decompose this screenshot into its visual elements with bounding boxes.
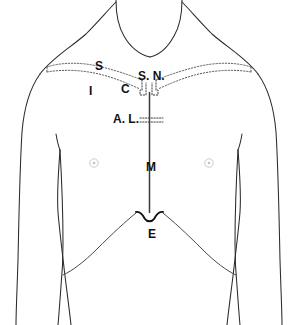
- costal-margin-right: [163, 213, 236, 275]
- neck-right-outline: [150, 0, 182, 57]
- label-clavicle: C: [121, 83, 130, 95]
- nipple-left-dot: [93, 162, 96, 165]
- label-manubrium-midline: M: [146, 161, 156, 173]
- xiphoid-notch: [136, 212, 163, 221]
- arm-left-outer-outline: [16, 74, 40, 325]
- clavicle-right-inferior-border: [158, 70, 251, 89]
- label-superior-border-clavicle: S: [95, 60, 103, 72]
- clavicle-right-superior-border: [156, 63, 251, 80]
- chest-landmarks-figure: S I C S. N. A. L. M E: [0, 0, 298, 325]
- label-epigastric-xiphoid: E: [148, 228, 156, 240]
- label-angle-of-louis: A. L.: [113, 113, 139, 125]
- costal-margin-left: [63, 213, 136, 275]
- axilla-left-fold: [56, 134, 60, 150]
- label-suprasternal-notch: S. N.: [138, 70, 165, 82]
- axilla-right-fold: [238, 134, 242, 150]
- nipple-right-dot: [208, 162, 211, 165]
- label-inferior-border-clavicle: I: [89, 85, 92, 97]
- arm-right-outer-outline: [258, 74, 282, 325]
- neck-left-outline: [116, 0, 150, 57]
